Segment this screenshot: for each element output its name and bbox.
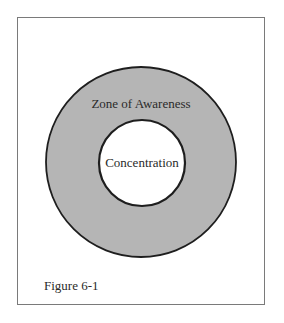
concentric-diagram: Zone of Awareness Concentration bbox=[0, 0, 284, 323]
concentration-label: Concentration bbox=[105, 155, 179, 170]
figure-caption: Figure 6-1 bbox=[44, 278, 99, 294]
zone-of-awareness-label: Zone of Awareness bbox=[91, 96, 190, 111]
